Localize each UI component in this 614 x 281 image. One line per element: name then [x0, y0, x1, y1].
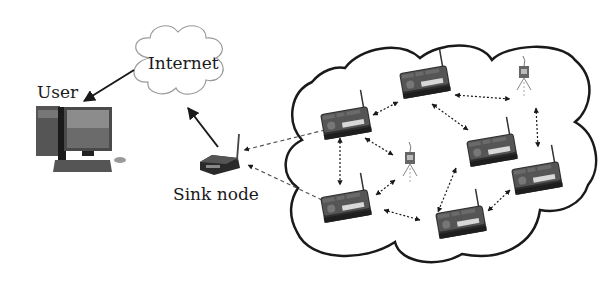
wsn-diagram: [0, 0, 614, 281]
sink-node-router-icon: [200, 134, 240, 175]
sink-node-label: Sink node: [173, 186, 259, 203]
user-label: User: [37, 84, 78, 101]
internet-label: Internet: [148, 55, 219, 72]
user-computer-icon: [36, 106, 126, 172]
internet-to-user-arrow: [84, 70, 134, 101]
sink-to-internet-arrow: [188, 108, 218, 147]
